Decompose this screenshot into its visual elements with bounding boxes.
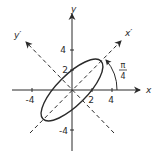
y-axis-label: y xyxy=(70,4,77,14)
y-tick-label-4: 4 xyxy=(60,45,66,55)
rotation-angle-label: π 4 xyxy=(119,61,127,81)
x-tick-label-4: 4 xyxy=(108,95,114,105)
angle-denominator: 4 xyxy=(120,72,125,81)
rotation-angle-arc xyxy=(106,60,117,90)
angle-numerator: π xyxy=(121,61,126,70)
x-axis-label: x xyxy=(145,85,152,95)
rotated-ellipse-diagram: -4 2 4 4 2 -4 x y x′ y′ π 4 xyxy=(0,0,157,155)
y-tick-label-neg4: -4 xyxy=(59,126,68,136)
x-prime-axis-label: x′ xyxy=(124,28,132,38)
y-tick-label-2: 2 xyxy=(62,65,68,75)
y-prime-axis-label: y′ xyxy=(13,30,21,40)
y-prime-axis xyxy=(26,42,114,133)
x-tick-label-2: 2 xyxy=(88,95,94,105)
x-tick-label-neg4: -4 xyxy=(26,95,35,105)
